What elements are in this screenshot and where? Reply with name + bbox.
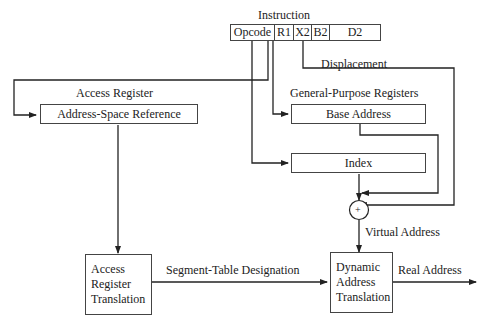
dat-line-3: Translation [336,290,390,305]
gpr-label: General-Purpose Registers [290,87,418,100]
index-box: Index [291,153,426,173]
instruction-fields: Opcode R1 X2 B2 D2 [230,24,381,41]
field-x2: X2 [293,24,312,41]
field-r1: R1 [274,24,294,41]
art-line-2: Register [91,277,131,292]
segment-table-designation-label: Segment-Table Designation [166,264,299,277]
access-register-label: Access Register [76,87,153,100]
address-space-reference-box: Address-Space Reference [40,104,198,124]
displacement-label: Displacement [321,58,387,71]
dat-line-2: Address [336,275,375,290]
art-line-3: Translation [91,292,145,307]
access-register-translation-box: Access Register Translation [85,254,152,315]
dat-line-1: Dynamic [336,260,380,275]
field-b2: B2 [311,24,330,41]
art-line-1: Access [91,262,125,277]
base-address-box: Base Address [291,104,426,124]
real-address-label: Real Address [398,264,462,277]
field-d2: D2 [329,24,381,41]
instruction-title: Instruction [258,9,310,22]
field-opcode: Opcode [230,24,275,41]
adder-icon: + [355,203,361,216]
dynamic-address-translation-box: Dynamic Address Translation [330,252,393,313]
virtual-address-label: Virtual Address [365,226,440,239]
